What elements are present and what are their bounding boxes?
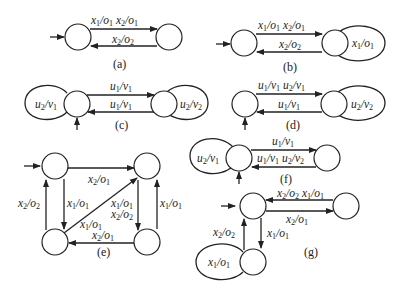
edge-label: x1/o1 x2/o1 xyxy=(90,14,138,28)
edge-label: u2/v1 xyxy=(35,98,57,112)
subfigure-b: x1/o1 x2/o1 x2/o2 x1/o1 (b) xyxy=(216,19,385,74)
edge-label: x1/o1 xyxy=(266,227,289,241)
edge-label: u1/v1 xyxy=(278,98,300,112)
state-node xyxy=(322,30,348,56)
subfigure-g: x2/o2 x1/o1 x2/o1 x2/o2 x1/o1 x1/o1 (g) xyxy=(196,187,359,280)
edge-label: x1/o1 x2/o1 xyxy=(257,19,305,33)
edge-label: x2/o1 xyxy=(87,173,110,187)
state-node xyxy=(240,193,266,219)
edge-label: x2/o2 xyxy=(212,226,235,240)
edge-label: x1/o1 xyxy=(351,37,374,51)
edge-label: x2/o2 xyxy=(278,38,301,52)
state-node xyxy=(134,229,160,255)
edge-label: u2/v1 xyxy=(197,152,219,166)
caption-a: (a) xyxy=(113,57,126,71)
edge-label: u2/v2 xyxy=(351,98,373,112)
state-node xyxy=(151,91,177,117)
edge-label: x2/o2 x1/o1 xyxy=(276,187,324,201)
edge-label: x1/o1 xyxy=(207,256,230,270)
edge-label: x2/o2 xyxy=(17,197,40,211)
subfigure-f: u2/v1 u1/v1 u1/v1 u2/v2 (f) xyxy=(190,135,340,186)
state-machine-figure: x1/o1 x2/o1 x2/o2 (a) x1/o1 x2/o1 x2/o2 … xyxy=(0,0,403,292)
edge-label: u2/v2 xyxy=(180,98,202,112)
edge-label: x2/o1 xyxy=(285,213,308,227)
caption-f: (f) xyxy=(280,172,292,186)
state-node xyxy=(232,91,258,117)
edge-label: u1/v1 u2/v1 xyxy=(258,79,305,93)
subfigure-d: u1/v1 u2/v1 u1/v1 u2/v2 (d) xyxy=(232,79,385,132)
state-node xyxy=(321,91,347,117)
state-node xyxy=(42,229,68,255)
state-node xyxy=(226,145,252,171)
state-node xyxy=(65,24,91,50)
caption-c: (c) xyxy=(115,118,128,132)
caption-e: (e) xyxy=(97,245,110,259)
subfigure-e: x2/o1 x2/o2 x1/o1 x1/o1 x2/o2 x1/o1 x1/o… xyxy=(17,153,182,259)
edge-label: x2/o2 xyxy=(111,33,134,47)
edge-label: x2/o1 xyxy=(91,229,114,243)
subfigure-c: u2/v1 u1/v1 u1/v1 u2/v2 (c) xyxy=(25,80,208,132)
state-node xyxy=(231,30,257,56)
state-node xyxy=(64,91,90,117)
edge-label: u1/v1 xyxy=(110,80,132,94)
caption-b: (b) xyxy=(283,60,297,74)
edge-label: u1/v1 u2/v2 xyxy=(257,152,304,166)
edge-label: x1/o1 xyxy=(79,218,102,232)
state-node xyxy=(314,145,340,171)
caption-d: (d) xyxy=(286,118,300,132)
state-node xyxy=(333,193,359,219)
edge-label: x1/o1 xyxy=(66,197,89,211)
subfigure-a: x1/o1 x2/o1 x2/o2 (a) xyxy=(50,14,182,71)
caption-g: (g) xyxy=(304,245,318,259)
edge-label: u1/v1 xyxy=(272,135,294,149)
state-node xyxy=(42,153,68,179)
edge-label: u1/v1 xyxy=(110,98,132,112)
state-node xyxy=(240,249,266,275)
edge-label: x1/o1 xyxy=(159,197,182,211)
state-node xyxy=(156,24,182,50)
state-node xyxy=(134,153,160,179)
